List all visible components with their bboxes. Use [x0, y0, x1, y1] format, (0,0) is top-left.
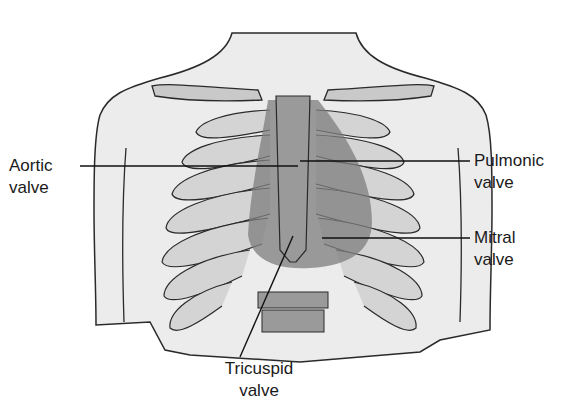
chest-diagram [0, 0, 586, 415]
label-line: Pulmonic [474, 150, 544, 172]
tricuspid-valve-label: Tricuspid valve [199, 358, 319, 402]
label-line: Tricuspid [199, 358, 319, 380]
mitral-valve-label: Mitral valve [474, 227, 516, 271]
pulmonic-valve-label: Pulmonic valve [474, 150, 544, 194]
label-line: Mitral [474, 227, 516, 249]
label-line: Aortic [9, 155, 52, 177]
label-line: valve [474, 249, 516, 271]
aortic-valve-label: Aortic valve [9, 155, 52, 199]
vertebra [258, 292, 328, 308]
label-line: valve [199, 380, 319, 402]
label-line: valve [474, 172, 544, 194]
label-line: valve [9, 177, 52, 199]
vertebra [262, 310, 324, 332]
